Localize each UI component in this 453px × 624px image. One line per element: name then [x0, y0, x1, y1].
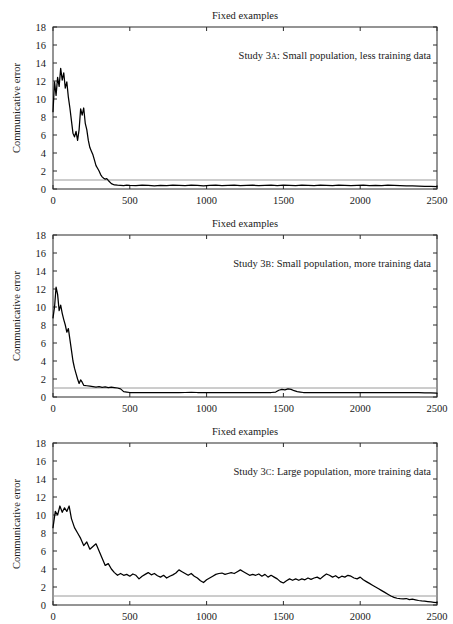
x-tick-label: 2500: [427, 611, 448, 622]
y-tick-label: 12: [36, 492, 47, 503]
y-axis-ticks: 024681012141618: [36, 438, 438, 611]
x-tick-label: 0: [50, 195, 55, 206]
x-tick-label: 0: [50, 403, 55, 414]
y-tick-label: 0: [41, 600, 46, 611]
annotation-suffix: : Small population, less training data: [277, 50, 431, 61]
x-tick-label: 0: [50, 611, 55, 622]
x-tick-label: 2500: [427, 195, 448, 206]
y-tick-label: 14: [36, 58, 47, 69]
y-axis-ticks: 024681012141618: [36, 230, 438, 403]
y-tick-label: 18: [36, 22, 47, 33]
annotation-suffix: : Large population, more training data: [271, 466, 431, 477]
x-tick-label: 2500: [427, 403, 448, 414]
y-tick-label: 6: [41, 338, 46, 349]
annotation-prefix: Study 3: [239, 50, 271, 61]
y-tick-label: 4: [41, 356, 47, 367]
annotation-prefix: Study 3: [233, 466, 265, 477]
annotation-prefix: Study 3: [233, 258, 265, 269]
y-tick-label: 16: [36, 248, 47, 259]
y-tick-label: 18: [36, 438, 47, 449]
x-tick-label: 2000: [350, 195, 371, 206]
panel-title: Fixed examples: [212, 218, 278, 229]
y-tick-label: 2: [41, 374, 46, 385]
y-tick-label: 2: [41, 582, 46, 593]
y-tick-label: 16: [36, 456, 47, 467]
y-tick-label: 2: [41, 166, 46, 177]
x-tick-label: 1000: [196, 195, 217, 206]
y-tick-label: 8: [41, 112, 46, 123]
panel-annotation: Study 3C: Large population, more trainin…: [233, 466, 431, 477]
y-axis-ticks: 024681012141618: [36, 22, 438, 195]
chart-panel: Fixed examplesCommunicative error0246810…: [0, 208, 453, 416]
y-tick-label: 10: [36, 94, 47, 105]
x-tick-label: 2000: [350, 403, 371, 414]
y-axis-label: Communicative error: [11, 270, 22, 361]
annotation-suffix: : Small population, more training data: [271, 258, 431, 269]
x-tick-label: 500: [122, 403, 138, 414]
panel-title: Fixed examples: [212, 10, 278, 21]
figure-container: Fixed examplesCommunicative error0246810…: [0, 0, 453, 624]
y-tick-label: 8: [41, 528, 46, 539]
panel-annotation: Study 3B: Small population, more trainin…: [233, 258, 431, 269]
chart-panel: Fixed examplesCommunicative error0246810…: [0, 0, 453, 208]
x-tick-label: 1000: [196, 403, 217, 414]
y-tick-label: 18: [36, 230, 47, 241]
x-tick-label: 500: [122, 195, 138, 206]
series-line: [53, 287, 437, 393]
panel-annotation: Study 3A: Small population, less trainin…: [239, 50, 432, 61]
y-tick-label: 8: [41, 320, 46, 331]
y-tick-label: 0: [41, 184, 46, 195]
x-tick-label: 1000: [196, 611, 217, 622]
y-tick-label: 4: [41, 148, 47, 159]
y-tick-label: 12: [36, 284, 47, 295]
y-tick-label: 14: [36, 266, 47, 277]
x-tick-label: 1500: [273, 195, 294, 206]
y-axis-label: Communicative error: [11, 62, 22, 153]
x-tick-label: 500: [122, 611, 138, 622]
x-tick-label: 2000: [350, 611, 371, 622]
y-tick-label: 6: [41, 546, 46, 557]
panel-title: Fixed examples: [212, 426, 278, 437]
y-tick-label: 6: [41, 130, 46, 141]
y-tick-label: 10: [36, 302, 47, 313]
y-tick-label: 16: [36, 40, 47, 51]
y-tick-label: 10: [36, 510, 47, 521]
x-tick-label: 1500: [273, 403, 294, 414]
chart-panel: Fixed examplesCommunicative error0246810…: [0, 416, 453, 624]
series-line: [53, 506, 437, 603]
y-tick-label: 4: [41, 564, 47, 575]
y-tick-label: 0: [41, 392, 46, 403]
y-tick-label: 12: [36, 76, 47, 87]
x-tick-label: 1500: [273, 611, 294, 622]
series-line: [53, 68, 437, 186]
y-axis-label: Communicative error: [11, 478, 22, 569]
y-tick-label: 14: [36, 474, 47, 485]
